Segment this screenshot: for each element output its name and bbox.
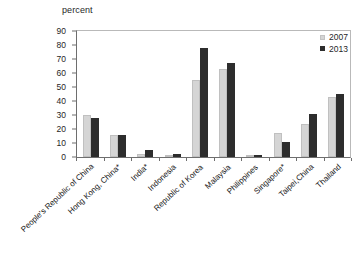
bar-chart: percent 0102030405060708090 People's Rep… <box>0 0 360 267</box>
bar-2013[interactable] <box>118 135 126 157</box>
bar-2013[interactable] <box>254 155 262 157</box>
x-axis <box>76 158 351 162</box>
y-axis-title: percent <box>62 5 93 15</box>
bar-2007[interactable] <box>246 155 254 157</box>
bar-group <box>241 31 268 157</box>
y-axis: 0102030405060708090 <box>0 30 76 158</box>
y-axis-tick-label: 90 <box>57 27 66 36</box>
y-axis-tick-label: 50 <box>57 83 66 92</box>
y-axis-tick-label: 80 <box>57 41 66 50</box>
y-axis-tick-label: 20 <box>57 125 66 134</box>
bar-group <box>77 31 104 157</box>
bar-2007[interactable] <box>165 155 173 157</box>
legend-item-2013[interactable]: 2013 <box>320 45 348 54</box>
x-axis-tick-mark <box>76 158 77 161</box>
bar-2007[interactable] <box>137 154 145 158</box>
chart-legend: 20072013 <box>320 33 348 53</box>
legend-swatch-icon <box>320 35 325 40</box>
bar-group <box>186 31 213 157</box>
x-axis-tick-mark <box>296 158 297 161</box>
bar-2013[interactable] <box>91 118 99 157</box>
x-axis-tick-mark <box>186 158 187 161</box>
x-axis-tick-mark <box>351 158 352 161</box>
bar-group <box>159 31 186 157</box>
y-axis-tick-label: 30 <box>57 111 66 120</box>
bar-2013[interactable] <box>200 48 208 157</box>
y-axis-tick-label: 40 <box>57 97 66 106</box>
y-axis-tick-label: 10 <box>57 139 66 148</box>
bar-2013[interactable] <box>173 154 181 158</box>
bar-2007[interactable] <box>328 97 336 157</box>
x-axis-label: Thailand <box>315 163 343 190</box>
bar-2013[interactable] <box>336 94 344 157</box>
x-axis-tick-mark <box>269 158 270 161</box>
bar-2013[interactable] <box>282 142 290 157</box>
bar-2007[interactable] <box>192 80 200 157</box>
x-axis-tick-mark <box>131 158 132 161</box>
bar-2007[interactable] <box>274 133 282 157</box>
bar-2013[interactable] <box>145 150 153 157</box>
bar-group <box>132 31 159 157</box>
legend-label: 2007 <box>329 33 348 42</box>
y-axis-tick-label: 60 <box>57 69 66 78</box>
x-axis-tick-mark <box>214 158 215 161</box>
x-axis-tick-mark <box>159 158 160 161</box>
bar-group <box>268 31 295 157</box>
x-axis-label: Republic of Korea <box>153 163 205 212</box>
legend-swatch-icon <box>320 46 325 51</box>
bar-group <box>295 31 322 157</box>
bar-group <box>104 31 131 157</box>
bar-2013[interactable] <box>227 63 235 158</box>
plot-wrapper <box>76 30 351 158</box>
bar-2007[interactable] <box>83 115 91 157</box>
y-axis-tick-label: 70 <box>57 55 66 64</box>
legend-label: 2013 <box>329 45 348 54</box>
bars-layer <box>77 31 350 157</box>
x-axis-tick-mark <box>324 158 325 161</box>
bar-2007[interactable] <box>110 135 118 157</box>
bar-group <box>213 31 240 157</box>
bar-2007[interactable] <box>301 124 309 157</box>
bar-2007[interactable] <box>219 69 227 157</box>
x-axis-label: India* <box>130 163 150 183</box>
x-axis-tick-mark <box>241 158 242 161</box>
y-axis-tick-label: 0 <box>61 153 66 162</box>
x-axis-tick-mark <box>104 158 105 161</box>
x-axis-label: Hong Kong, China* <box>67 163 123 216</box>
bar-2013[interactable] <box>309 114 317 157</box>
legend-item-2007[interactable]: 2007 <box>320 33 348 42</box>
